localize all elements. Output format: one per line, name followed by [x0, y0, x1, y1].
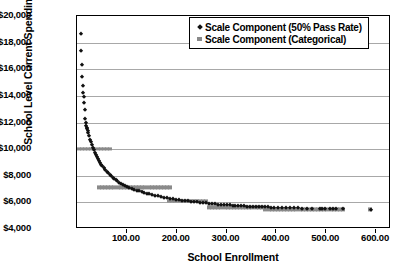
legend-item-categorical: Scale Component (Categorical) — [194, 33, 362, 45]
data-point-pass-rate — [79, 49, 84, 54]
data-point-pass-rate — [83, 107, 88, 112]
data-point-pass-rate — [82, 94, 87, 99]
data-point-categorical — [108, 148, 112, 151]
y-tick-label: $20,000 — [0, 9, 31, 20]
gridline — [77, 69, 389, 70]
data-point-pass-rate — [82, 101, 87, 106]
x-axis-title: School Enrollment — [76, 251, 390, 263]
chart-container: School Level Current Spending/Cost Schoo… — [0, 0, 412, 271]
y-tick-label: $12,000 — [0, 116, 31, 127]
y-tick-label: $8,000 — [0, 169, 31, 180]
gridline — [77, 149, 389, 150]
y-tick-label: $14,000 — [0, 89, 31, 100]
data-point-pass-rate — [80, 74, 85, 79]
y-tick-label: $4,000 — [0, 222, 31, 233]
y-tick-label: $18,000 — [0, 36, 31, 47]
gridline — [77, 176, 389, 177]
data-point-pass-rate — [340, 207, 345, 212]
data-point-pass-rate — [80, 63, 85, 68]
gridline — [77, 123, 389, 124]
legend-label-categorical: Scale Component (Categorical) — [205, 34, 346, 45]
legend-label-pass-rate: Scale Component (50% Pass Rate) — [205, 22, 362, 33]
data-point-pass-rate — [81, 83, 86, 88]
x-tick-label: 600.00 — [345, 232, 405, 243]
legend: Scale Component (50% Pass Rate) Scale Co… — [189, 17, 369, 49]
y-tick-label: $6,000 — [0, 195, 31, 206]
y-tick-label: $16,000 — [0, 62, 31, 73]
gridline — [77, 96, 389, 97]
diamond-marker-icon — [194, 25, 205, 29]
y-axis-title: School Level Current Spending/Cost — [22, 0, 34, 166]
data-point-pass-rate — [369, 208, 374, 213]
data-point-categorical — [168, 186, 172, 189]
square-marker-icon — [194, 37, 205, 42]
legend-item-pass-rate: Scale Component (50% Pass Rate) — [194, 21, 362, 33]
y-tick-label: $10,000 — [0, 142, 31, 153]
data-point-pass-rate — [79, 32, 84, 37]
